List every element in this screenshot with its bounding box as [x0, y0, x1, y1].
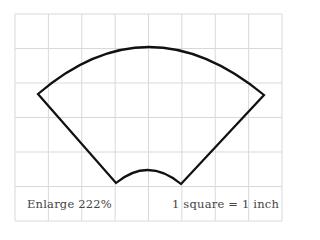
enlarge-label: Enlarge 222%	[27, 197, 112, 211]
fan-shape-outline	[38, 47, 264, 184]
scale-label: 1 square = 1 inch	[172, 197, 279, 211]
